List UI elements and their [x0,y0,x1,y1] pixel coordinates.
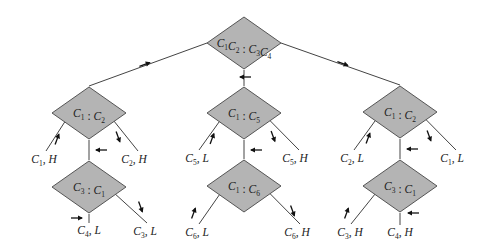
leaf-label-l3: C4, L [77,224,101,239]
leaf-label-l10: C1, L [440,152,464,167]
arrow-MB-right-icon [288,205,297,218]
leaf-label-l8: C6, H [284,226,310,241]
arrow-L-right-icon [114,131,123,144]
leaf-label-l5: C5, L [185,152,209,167]
arrow-R-left-icon [364,131,373,144]
arrow-LB-right-icon [136,201,145,214]
arrow-root-middle-icon [239,74,251,79]
arrow-M-right-icon [269,130,278,143]
arrow-MB-left-icon [189,206,198,219]
leaf-label-l1: C1, H [31,153,57,168]
leaf-label-l11: C3, H [337,226,363,241]
leaf-label-l6: C5, H [282,152,308,167]
leaf-label-l7: C6, L [185,226,209,241]
arrow-RB-down-icon [407,210,419,215]
decision-tree-diagram: C1C2 : C3C4C1 : C2C1 : C5C1 : C2C3 : C1C… [0,0,487,241]
arrow-LB-down-icon [71,215,83,220]
leaf-label-l12: C4, H [387,226,413,241]
leaf-label-l2: C2, H [121,153,147,168]
arrow-M-down-icon [250,147,262,152]
leaf-label-l9: C2, L [340,152,364,167]
edge-root-right [281,43,400,85]
leaf-label-l4: C3, L [133,225,157,240]
arrow-R-down-icon [406,146,418,151]
tree-svg: C1C2 : C3C4C1 : C2C1 : C5C1 : C2C3 : C1C… [0,0,487,241]
arrow-M-left-icon [208,132,217,145]
arrow-L-down-icon [95,147,107,152]
arrow-RB-left-icon [342,206,351,219]
arrow-R-right-icon [425,130,434,143]
